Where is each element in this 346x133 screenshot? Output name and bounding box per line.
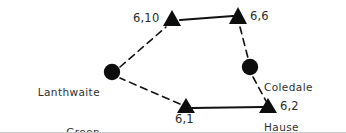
edge-6-1-to-lanthwaite-green xyxy=(120,78,180,104)
place-label-coledale-hause-line1: Coledale xyxy=(264,81,344,94)
bottom-frame-divider xyxy=(0,132,346,133)
node-marker-lanthwaite-green[interactable] xyxy=(104,64,120,80)
node-label-6-10: 6,10 xyxy=(133,12,159,26)
node-marker-6-1[interactable] xyxy=(177,98,195,113)
node-marker-coledale-hause[interactable] xyxy=(242,59,258,75)
place-label-lanthwaite-green: Lanthwaite Green xyxy=(14,60,100,133)
diagram-canvas: 6,10 6,6 6,1 6,2 Lanthwaite Green Coleda… xyxy=(0,0,346,133)
edge-lanthwaite-green-to-6-10 xyxy=(120,27,166,67)
place-label-coledale-hause: Coledale Hause xyxy=(264,55,344,133)
node-label-6-6: 6,6 xyxy=(250,10,269,24)
edge-6-1-to-6-2 xyxy=(192,107,263,108)
edge-6-6-to-coledale-hause xyxy=(240,27,248,58)
place-label-lanthwaite-green-line1: Lanthwaite xyxy=(14,86,100,99)
node-label-6-1: 6,1 xyxy=(175,113,194,127)
edge-6-10-to-6-6 xyxy=(180,16,233,20)
node-marker-6-10[interactable] xyxy=(163,10,181,26)
